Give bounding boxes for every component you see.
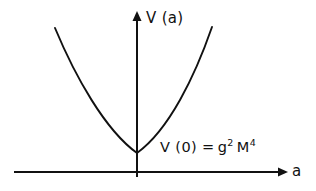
- annotation-coupling-exponent: 2: [227, 137, 233, 148]
- annotation-mass-exponent: 4: [250, 137, 256, 148]
- plot-canvas: [0, 0, 316, 191]
- y-axis-arrowhead-icon: [133, 11, 142, 21]
- potential-plot-figure: V (a) a V (0) =g2M4: [0, 0, 316, 191]
- vertex-value-annotation: V (0) =g2M4: [160, 140, 256, 155]
- annotation-lhs: V (0) =: [160, 139, 215, 155]
- parabola-curve: [55, 27, 212, 153]
- annotation-mass: M: [237, 139, 250, 155]
- x-axis-arrowhead-icon: [278, 168, 288, 177]
- x-axis-label: a: [292, 164, 301, 179]
- annotation-coupling: g: [218, 139, 228, 155]
- y-axis-label: V (a): [146, 11, 183, 26]
